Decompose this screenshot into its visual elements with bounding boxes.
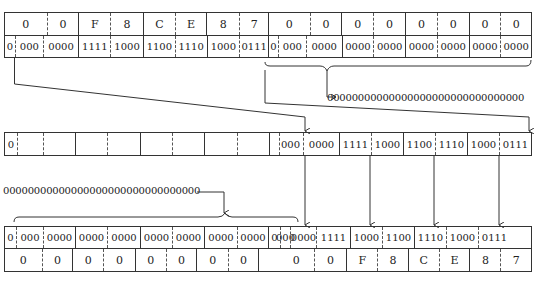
exponent-brace (14, 213, 298, 222)
shift-line-left (15, 58, 306, 131)
connector-lines (0, 0, 536, 285)
mantissa-brace-arrow (327, 71, 336, 97)
exponent-zeros-arrow (197, 192, 224, 213)
mantissa-brace (265, 60, 531, 71)
